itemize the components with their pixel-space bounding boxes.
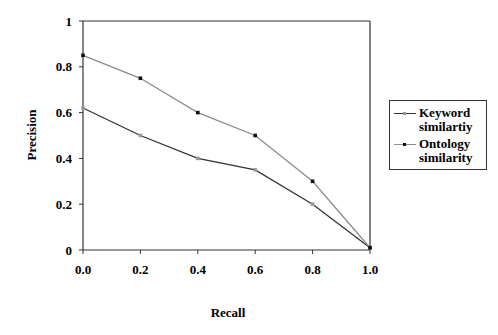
x-tick-label: 0.0 [75,262,91,277]
legend-label-keyword: Keyword similartiy [419,106,485,134]
data-point-marker [253,134,257,138]
legend-item-ontology: Ontology similarity [394,137,485,165]
data-point-marker [81,54,85,58]
data-point-marker [81,106,85,110]
legend-label-ontology: Ontology similarity [419,137,485,165]
y-tick-label: 0.6 [56,105,73,120]
x-axis-title: Recall [211,305,246,320]
x-tick-label: 0.6 [247,262,264,277]
legend-item-keyword: Keyword similartiy [394,106,485,134]
series-line-0 [83,108,370,248]
data-point-marker [196,111,200,115]
data-point-marker [139,134,143,138]
series-line-1 [83,55,370,247]
data-point-marker [311,202,315,206]
y-tick-label: 0.4 [56,151,73,166]
legend: Keyword similartiy Ontology similarity [389,100,487,170]
data-point-marker [139,76,143,80]
x-tick-label: 1.0 [362,262,378,277]
legend-swatch-ontology [394,141,416,149]
data-point-marker [311,180,315,184]
y-tick-label: 0.8 [56,59,73,74]
y-axis-title: Precision [24,109,39,161]
series-lines [81,54,372,250]
y-tick-label: 0 [66,243,73,258]
x-tick-label: 0.4 [190,262,207,277]
legend-swatch-keyword [394,110,416,118]
data-point-marker [196,157,200,161]
y-tick-label: 0.2 [56,197,72,212]
data-point-marker [253,168,257,172]
data-point-marker [368,246,372,250]
y-tick-label: 1 [66,14,73,29]
x-tick-label: 0.2 [132,262,148,277]
axes: 00.20.40.60.810.00.20.40.60.81.0 [56,14,378,278]
x-tick-label: 0.8 [304,262,321,277]
